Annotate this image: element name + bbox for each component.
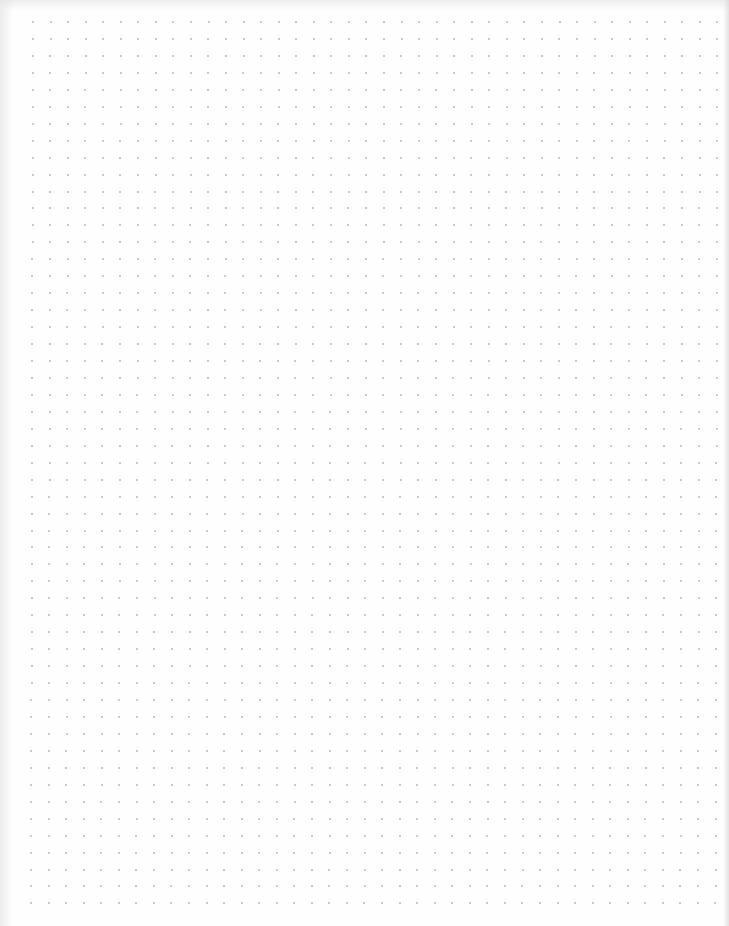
grid-dot xyxy=(646,72,648,74)
grid-dot xyxy=(364,530,366,532)
grid-dot xyxy=(698,496,700,498)
grid-dot xyxy=(102,140,104,142)
grid-dot xyxy=(453,191,455,193)
grid-dot xyxy=(523,207,525,209)
grid-dot xyxy=(225,174,227,176)
grid-dot xyxy=(417,394,419,396)
grid-dot xyxy=(488,377,490,379)
grid-dot xyxy=(312,394,314,396)
grid-dot xyxy=(681,55,683,57)
grid-dot xyxy=(434,648,436,650)
grid-dot xyxy=(276,665,278,667)
grid-dot xyxy=(539,869,541,871)
grid-dot xyxy=(294,462,296,464)
grid-dot xyxy=(313,123,315,125)
grid-dot xyxy=(417,309,419,311)
grid-dot xyxy=(172,224,174,226)
grid-dot xyxy=(488,275,490,277)
grid-dot xyxy=(276,648,278,650)
grid-dot xyxy=(223,750,225,752)
grid-dot xyxy=(575,631,577,633)
grid-dot xyxy=(312,326,314,328)
grid-dot xyxy=(487,716,489,718)
grid-dot xyxy=(698,275,700,277)
grid-dot xyxy=(400,326,402,328)
grid-dot xyxy=(347,648,349,650)
grid-dot xyxy=(207,309,209,311)
grid-dot xyxy=(435,326,437,328)
grid-dot xyxy=(699,38,701,40)
grid-dot xyxy=(136,767,138,769)
grid-dot xyxy=(190,123,192,125)
grid-dot xyxy=(400,106,402,108)
grid-dot xyxy=(347,309,349,311)
grid-dot xyxy=(171,784,173,786)
grid-dot xyxy=(697,750,699,752)
grid-dot xyxy=(153,852,155,854)
grid-dot xyxy=(101,750,103,752)
grid-dot xyxy=(506,72,508,74)
grid-dot xyxy=(118,665,120,667)
grid-dot xyxy=(48,767,50,769)
grid-dot xyxy=(716,38,718,40)
grid-dot xyxy=(293,835,295,837)
grid-dot xyxy=(715,563,717,565)
grid-dot xyxy=(119,224,121,226)
grid-dot xyxy=(452,699,454,701)
grid-dot xyxy=(400,394,402,396)
grid-dot xyxy=(32,55,34,57)
grid-dot xyxy=(417,462,419,464)
grid-dot xyxy=(453,106,455,108)
grid-dot xyxy=(313,21,315,23)
grid-dot xyxy=(83,885,85,887)
grid-dot xyxy=(118,902,120,904)
grid-dot xyxy=(646,309,648,311)
grid-dot xyxy=(716,140,718,142)
grid-dot xyxy=(347,496,349,498)
grid-dot xyxy=(364,750,366,752)
grid-dot xyxy=(171,513,173,515)
grid-dot xyxy=(364,801,366,803)
grid-dot xyxy=(83,665,85,667)
grid-dot xyxy=(715,546,717,548)
grid-dot xyxy=(471,38,473,40)
grid-dot xyxy=(347,275,349,277)
grid-dot xyxy=(364,682,366,684)
grid-dot xyxy=(715,496,717,498)
grid-dot xyxy=(592,597,594,599)
grid-dot xyxy=(504,699,506,701)
grid-dot xyxy=(329,462,331,464)
grid-dot xyxy=(83,699,85,701)
grid-dot xyxy=(381,750,383,752)
grid-dot xyxy=(716,445,718,447)
grid-dot xyxy=(119,191,121,193)
grid-dot xyxy=(330,72,332,74)
grid-dot xyxy=(681,377,683,379)
grid-dot xyxy=(418,21,420,23)
grid-dot xyxy=(119,530,121,532)
grid-dot xyxy=(592,699,594,701)
grid-dot xyxy=(171,716,173,718)
grid-dot xyxy=(611,38,613,40)
grid-dot xyxy=(188,682,190,684)
grid-dot xyxy=(136,479,138,481)
grid-dot xyxy=(522,563,524,565)
grid-dot xyxy=(101,546,103,548)
grid-dot xyxy=(330,360,332,362)
grid-dot xyxy=(172,174,174,176)
grid-dot xyxy=(558,224,560,226)
grid-dot xyxy=(172,360,174,362)
grid-dot xyxy=(224,614,226,616)
grid-dot xyxy=(190,89,192,91)
grid-dot xyxy=(329,513,331,515)
grid-dot xyxy=(592,750,594,752)
grid-dot xyxy=(189,648,191,650)
grid-dot xyxy=(189,631,191,633)
grid-dot xyxy=(453,292,455,294)
grid-dot xyxy=(294,580,296,582)
grid-dot xyxy=(435,258,437,260)
grid-dot xyxy=(382,360,384,362)
grid-dot xyxy=(83,546,85,548)
grid-dot xyxy=(206,699,208,701)
grid-dot xyxy=(539,784,541,786)
